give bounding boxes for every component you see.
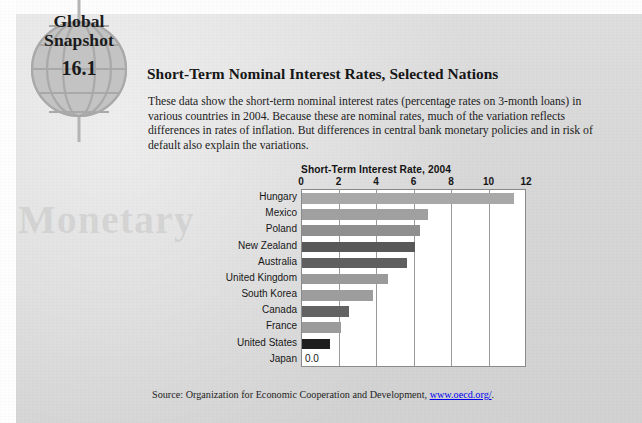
chart-row: United Kingdom: [302, 271, 525, 287]
bar-south-korea: [302, 290, 373, 301]
x-tick-6: 6: [411, 176, 417, 187]
chart-title: Short-Term Interest Rate, 2004: [226, 164, 526, 175]
page-left-gutter: [0, 0, 16, 423]
source-suffix: .: [492, 389, 495, 400]
category-label-new-zealand: New Zealand: [238, 240, 297, 251]
chart-plot-area: HungaryMexicoPolandNew ZealandAustraliaU…: [301, 189, 526, 367]
bar-chart: 024681012 HungaryMexicoPolandNew Zealand…: [205, 176, 545, 376]
bar-united-kingdom: [302, 274, 388, 285]
bar-hungary: [302, 193, 514, 204]
category-label-united-states: United States: [237, 337, 297, 348]
chart-row: Australia: [302, 255, 525, 271]
x-tick-10: 10: [483, 176, 494, 187]
x-tick-8: 8: [448, 176, 454, 187]
chart-row: Hungary: [302, 190, 525, 206]
chart-row: Japan0.0: [302, 352, 525, 368]
background-watermark-text: Monetary: [18, 196, 195, 243]
snapshot-page: Monetary Global Snapshot 16.1: [0, 0, 642, 423]
chart-row: New Zealand: [302, 239, 525, 255]
bar-new-zealand: [302, 242, 415, 253]
x-axis-tick-labels: 024681012: [301, 176, 533, 189]
category-label-mexico: Mexico: [265, 207, 297, 218]
chart-row: United States: [302, 336, 525, 352]
badge-text-block: Global Snapshot 16.1: [18, 12, 140, 81]
x-tick-4: 4: [373, 176, 379, 187]
page-title: Short-Term Nominal Interest Rates, Selec…: [147, 65, 617, 83]
source-url-link[interactable]: www.oecd.org/: [430, 389, 492, 400]
bar-poland: [302, 225, 420, 236]
category-label-australia: Australia: [258, 256, 297, 267]
category-label-hungary: Hungary: [259, 191, 297, 202]
bar-canada: [302, 306, 349, 317]
bar-australia: [302, 258, 407, 269]
badge-line-1: Global: [18, 12, 140, 31]
chart-row: Poland: [302, 222, 525, 238]
source-note: Source: Organization for Economic Cooper…: [152, 389, 494, 400]
category-label-south-korea: South Korea: [241, 288, 297, 299]
bar-united-states: [302, 339, 330, 350]
badge-line-2: Snapshot: [18, 31, 140, 50]
chart-row: Canada: [302, 303, 525, 319]
badge-number: 16.1: [18, 55, 140, 81]
source-prefix: Source: Organization for Economic Cooper…: [152, 389, 430, 400]
global-snapshot-badge: Global Snapshot 16.1: [18, 0, 140, 142]
description-paragraph: These data show the short-term nominal i…: [148, 95, 614, 153]
category-label-france: France: [266, 320, 297, 331]
chart-row: France: [302, 319, 525, 335]
chart-row: South Korea: [302, 287, 525, 303]
x-tick-12: 12: [520, 176, 531, 187]
chart-row: Mexico: [302, 206, 525, 222]
x-tick-0: 0: [298, 176, 304, 187]
category-label-japan: Japan: [270, 353, 297, 364]
category-label-canada: Canada: [262, 304, 297, 315]
bar-france: [302, 322, 341, 333]
x-tick-2: 2: [336, 176, 342, 187]
data-label-japan: 0.0: [305, 353, 319, 364]
category-label-poland: Poland: [266, 223, 297, 234]
category-label-united-kingdom: United Kingdom: [226, 272, 297, 283]
bar-mexico: [302, 209, 428, 220]
